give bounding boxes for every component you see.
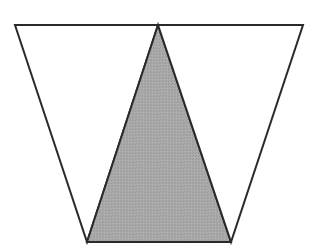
trapezoid-diagram xyxy=(0,0,320,250)
shapes-layer xyxy=(15,25,303,242)
